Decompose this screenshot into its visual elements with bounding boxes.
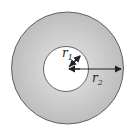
annulus-diagram: r1 r2 (0, 0, 130, 130)
